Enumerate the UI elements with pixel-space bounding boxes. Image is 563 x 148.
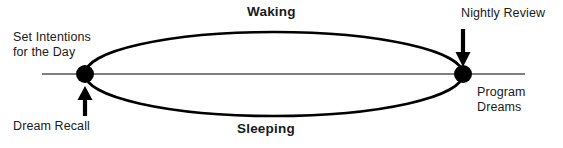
arrow-up-dream-recall: [78, 86, 93, 116]
node-label-set-intentions: Set Intentions for the Day: [13, 30, 91, 59]
node-label-dream-recall: Dream Recall: [13, 119, 90, 134]
program-dreams-line-1: Program: [477, 85, 526, 100]
set-intentions-line-2: for the Day: [13, 45, 91, 60]
phase-label-waking: Waking: [247, 5, 296, 20]
arrow-down-nightly-review: [456, 29, 471, 67]
phase-label-sleeping: Sleeping: [237, 122, 295, 137]
node-label-nightly-review: Nightly Review: [461, 6, 545, 21]
cycle-diagram: Waking Sleeping Set Intentions for the D…: [0, 0, 563, 148]
set-intentions-line-1: Set Intentions: [13, 30, 91, 45]
program-dreams-line-2: Dreams: [477, 100, 526, 115]
node-morning-dot[interactable]: [76, 65, 94, 83]
node-evening-dot[interactable]: [454, 65, 472, 83]
node-label-program-dreams: Program Dreams: [477, 85, 526, 114]
